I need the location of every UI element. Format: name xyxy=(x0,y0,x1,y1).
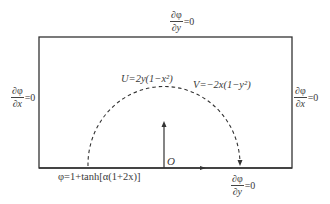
right-bc-numerator: ∂φ xyxy=(294,86,307,98)
left-boundary-condition: ∂φ ∂x =0 xyxy=(11,86,35,109)
right-bc-denominator: ∂x xyxy=(296,98,305,109)
velocity-u-label: U=2y(1−x²) xyxy=(121,74,173,85)
bottom-bc-rhs: =0 xyxy=(245,181,256,191)
velocity-v-text: V=−2x(1−y²) xyxy=(193,79,251,90)
top-bc-denominator: ∂y xyxy=(172,22,181,33)
left-bc-rhs: =0 xyxy=(25,93,36,103)
x-arrowhead-icon xyxy=(200,166,206,170)
top-boundary-condition: ∂φ ∂y =0 xyxy=(170,10,194,33)
initial-condition-label: φ=1+tanh[α(1+2x)] xyxy=(58,172,140,183)
diagram-canvas xyxy=(0,0,330,204)
origin-text: O xyxy=(167,155,175,167)
bottom-boundary-condition: ∂φ ∂y =0 xyxy=(231,174,255,197)
velocity-v-label: V=−2x(1−y²) xyxy=(193,80,251,91)
domain-boundary xyxy=(39,37,292,168)
left-bc-denominator: ∂x xyxy=(13,98,22,109)
top-bc-numerator: ∂φ xyxy=(170,10,183,22)
right-bc-rhs: =0 xyxy=(308,93,319,103)
bottom-bc-denominator: ∂y xyxy=(233,186,242,197)
top-bc-rhs: =0 xyxy=(184,17,195,27)
left-bc-numerator: ∂φ xyxy=(11,86,24,98)
velocity-u-text: U=2y(1−x²) xyxy=(121,73,173,84)
y-arrowhead-icon xyxy=(162,121,167,127)
arc-arrow-icon xyxy=(238,160,243,166)
right-boundary-condition: ∂φ ∂x =0 xyxy=(294,86,318,109)
origin-label: O xyxy=(167,156,175,167)
bottom-bc-numerator: ∂φ xyxy=(231,174,244,186)
